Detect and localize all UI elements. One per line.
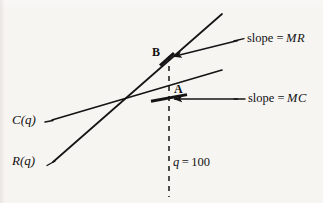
tangent-highlight-at-b [160, 53, 174, 66]
slope-mc-value: MC [287, 91, 307, 105]
quantity-value: 100 [191, 155, 210, 169]
cost-label-leader [45, 121, 53, 123]
slope-mr-prefix: slope = [247, 31, 284, 45]
revenue-curve-label: R(q) [12, 154, 35, 167]
quantity-equals-sign: = [182, 155, 189, 169]
revenue-label-leader [47, 161, 55, 166]
cost-curve-line [52, 70, 222, 120]
slope-mr-label: slope = MR [247, 32, 305, 45]
figure-canvas: C(q) R(q) B A q = 100 slope = MR slope =… [0, 0, 323, 203]
cost-curve-label: C(q) [12, 113, 36, 126]
slope-mc-label: slope = MC [248, 92, 307, 105]
point-a-label: A [174, 83, 183, 95]
point-b-label: B [152, 46, 160, 58]
slope-mc-prefix: slope = [248, 91, 285, 105]
revenue-curve-line [53, 14, 222, 162]
mr-label-leader [234, 39, 244, 41]
quantity-reference-label: q = 100 [173, 156, 210, 169]
slope-mr-value: MR [286, 31, 305, 45]
